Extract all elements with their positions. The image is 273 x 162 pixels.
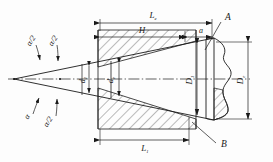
diameter-d1: d1: [78, 66, 89, 93]
d1-label: d1: [78, 77, 88, 83]
H-label: H: [138, 25, 146, 35]
Le-label: Le: [148, 10, 156, 21]
shank-bottom-fillet: [206, 118, 214, 120]
half-angle-bottom-leader: [56, 99, 57, 116]
B-leader-line: [192, 122, 216, 143]
half-angle-top-leader-2: [57, 45, 58, 61]
half-angle-top-label-2: α/2: [46, 34, 59, 48]
full-angle-bottom-leader: [33, 98, 39, 114]
full-angle-bottom-label: α: [22, 112, 32, 121]
half-angle-top-leader: [36, 45, 40, 60]
De-label: De: [235, 76, 246, 86]
D1-label: D1: [184, 76, 195, 86]
diameter-D1: D1: [184, 44, 197, 115]
half-angle-bottom-label: α/2: [41, 115, 54, 129]
drawing-canvas: Le H a L1 d1 de D1: [0, 0, 273, 162]
shank-top-fillet: [206, 38, 214, 40]
half-angle-top-label: α/2: [24, 34, 37, 48]
A-leader-line: [205, 22, 221, 50]
B-label: B: [221, 139, 227, 149]
lower-housing-hatch: [98, 88, 196, 129]
axis-marker-point: [59, 78, 61, 80]
callout-A: A: [205, 12, 231, 50]
upper-housing-section: [98, 30, 196, 67]
de-label: de: [105, 77, 116, 83]
angle-leader-lines: [33, 45, 58, 116]
technical-drawing-svg: Le H a L1 d1 de D1: [0, 0, 273, 162]
A-label: A: [224, 12, 231, 22]
a-label: a: [199, 26, 203, 35]
upper-housing-hatch: [98, 30, 196, 67]
break-section-hatch: [214, 88, 228, 120]
apex-point: [13, 78, 15, 80]
lower-housing-section: [98, 88, 196, 129]
callout-B: B: [192, 122, 227, 149]
L1-label: L1: [140, 143, 148, 154]
